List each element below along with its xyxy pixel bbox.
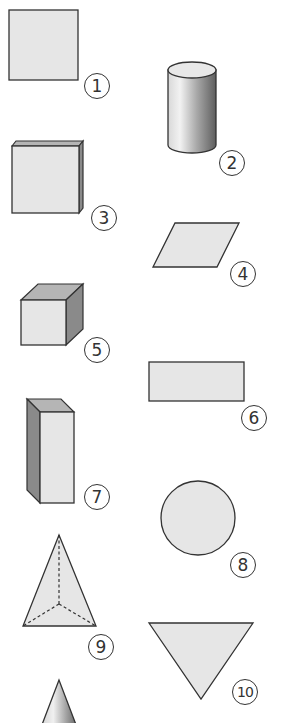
cone-shape <box>0 0 287 723</box>
